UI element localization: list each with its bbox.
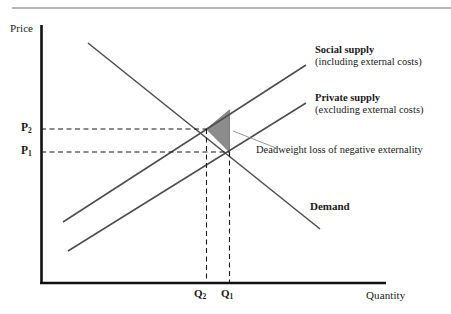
- x-tick-q1-base: Q: [221, 287, 230, 299]
- y-tick-p1-subscript: 1: [28, 149, 32, 158]
- x-axis-label: Quantity: [366, 289, 405, 301]
- y-tick-p2: P2: [21, 121, 32, 134]
- social-supply-subtitle: (including external costs): [315, 56, 422, 68]
- demand-label: Demand: [310, 200, 350, 212]
- y-tick-p2-subscript: 2: [28, 126, 32, 135]
- private-supply-subtitle: (excluding external costs): [315, 104, 423, 116]
- y-tick-p1: P1: [21, 144, 32, 157]
- figure-canvas: Price Quantity P2 P1 Q2 Q1 Social supply…: [0, 0, 451, 314]
- social-supply-title: Social supply: [315, 44, 422, 56]
- y-tick-p2-base: P: [21, 121, 28, 133]
- y-axis-label: Price: [10, 22, 33, 34]
- private-supply-curve: [68, 103, 306, 251]
- demand-curve: [88, 43, 320, 229]
- x-tick-q2: Q2: [194, 287, 206, 299]
- private-supply-label: Private supply (excluding external costs…: [315, 92, 423, 116]
- x-tick-q1-subscript: 1: [230, 292, 234, 301]
- deadweight-loss-annotation: Deadweight loss of negative externality: [256, 144, 423, 156]
- social-supply-label: Social supply (including external costs): [315, 44, 422, 68]
- x-tick-q1: Q1: [221, 287, 233, 299]
- x-tick-q2-subscript: 2: [203, 292, 207, 301]
- private-supply-title: Private supply: [315, 92, 423, 104]
- x-tick-q2-base: Q: [194, 287, 203, 299]
- y-tick-p1-base: P: [21, 144, 28, 156]
